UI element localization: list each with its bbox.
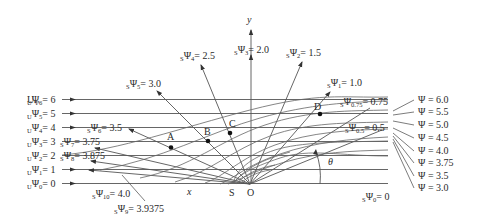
svg-text:SΨ4= 2.5: SΨ4= 2.5: [180, 50, 215, 62]
source-label-psi9: SΨ9= 3.9375: [114, 203, 164, 215]
source-label-psi075: SΨ0.75= 0.75: [340, 96, 388, 108]
source-label-psi1: SΨ1= 1.0: [327, 77, 362, 89]
source-label-psi6: SΨ6= 3.5: [87, 122, 122, 134]
svg-text:SΨ7= 3.75: SΨ7= 3.75: [60, 136, 100, 148]
point-O-label: O: [247, 187, 254, 198]
svg-text:Ψ = 5.5: Ψ = 5.5: [418, 106, 449, 117]
svg-text:SΨ3= 2.0: SΨ3= 2.0: [234, 44, 269, 56]
source-label-psi8: SΨ8= 3.875: [60, 150, 105, 162]
svg-text:SΨ6= 3.5: SΨ6= 3.5: [87, 122, 122, 134]
uniform-label-0: UΨ0= 0: [27, 178, 55, 190]
source-label-psi2: SΨ2= 1.5: [286, 47, 321, 59]
x-axis-label: x: [186, 186, 192, 197]
combined-leaders: [393, 100, 414, 188]
point-A-label: A: [167, 131, 175, 142]
svg-text:SΨ9= 3.9375: SΨ9= 3.9375: [114, 203, 164, 215]
svg-text:Ψ = 3.0: Ψ = 3.0: [418, 182, 449, 193]
svg-text:UΨ5= 5: UΨ5= 5: [27, 108, 55, 120]
uniform-label-6: UΨ6= 6: [27, 94, 55, 106]
uniform-label-4: UΨ4= 4: [27, 122, 55, 134]
svg-text:Ψ = 4.0: Ψ = 4.0: [418, 145, 449, 156]
svg-text:Ψ = 4.5: Ψ = 4.5: [418, 132, 449, 143]
source-label-psi4: SΨ4= 2.5: [180, 50, 215, 62]
svg-text:UΨ1= 1: UΨ1= 1: [27, 164, 55, 176]
svg-text:UΨ3= 3: UΨ3= 3: [27, 136, 55, 148]
svg-text:SΨ0= 0: SΨ0= 0: [362, 191, 389, 203]
svg-text:Ψ = 3.75: Ψ = 3.75: [418, 157, 454, 168]
source-label-psi5: SΨ5= 3.0: [126, 78, 161, 90]
source-label-psi05: SΨ0.5= 0.5: [345, 122, 385, 134]
source-label-psi10: SΨ10= 4.0: [92, 188, 130, 200]
svg-text:Ψ = 3.5: Ψ = 3.5: [418, 170, 449, 181]
y-axis-label: y: [246, 14, 252, 25]
source-label-psi3: SΨ3= 2.0: [234, 44, 269, 56]
svg-text:SΨ1= 1.0: SΨ1= 1.0: [327, 77, 362, 89]
svg-text:UΨ6= 6: UΨ6= 6: [27, 94, 55, 106]
svg-text:Ψ = 6.0: Ψ = 6.0: [418, 94, 449, 105]
point-D-label: D: [314, 101, 321, 112]
point-S-label: S: [229, 187, 235, 198]
svg-text:UΨ2= 2: UΨ2= 2: [27, 150, 55, 162]
source-label-psi7: SΨ7= 3.75: [60, 136, 100, 148]
svg-text:SΨ10= 4.0: SΨ10= 4.0: [92, 188, 130, 200]
svg-text:SΨ5= 3.0: SΨ5= 3.0: [126, 78, 161, 90]
svg-text:UΨ0= 0: UΨ0= 0: [27, 178, 55, 190]
uniform-label-3: UΨ3= 3: [27, 136, 55, 148]
uniform-label-1: UΨ1= 1: [27, 164, 55, 176]
streamline-superposition-diagram: θ A B C D S O y x UΨ UΨ6= 6 UΨ5= 5 UΨ4= …: [0, 0, 477, 219]
combined-streamlines: [62, 97, 388, 184]
source-label-psi0: SΨ0= 0: [362, 191, 389, 203]
svg-text:UΨ4= 4: UΨ4= 4: [27, 122, 55, 134]
svg-text:SΨ8= 3.875: SΨ8= 3.875: [60, 150, 105, 162]
point-C-label: C: [229, 118, 236, 129]
svg-text:SΨ0.5= 0.5: SΨ0.5= 0.5: [345, 122, 385, 134]
uniform-label-2: UΨ2= 2: [27, 150, 55, 162]
theta-label: θ: [328, 156, 333, 167]
svg-text:SΨ2= 1.5: SΨ2= 1.5: [286, 47, 321, 59]
svg-text:SΨ0.75= 0.75: SΨ0.75= 0.75: [340, 96, 388, 108]
svg-text:Ψ = 5.0: Ψ = 5.0: [418, 119, 449, 130]
point-B-label: B: [204, 126, 211, 137]
combined-labels: Ψ = 6.0 Ψ = 5.5 Ψ = 5.0 Ψ = 4.5 Ψ = 4.0 …: [418, 94, 454, 193]
uniform-label-5: UΨ5= 5: [27, 108, 55, 120]
